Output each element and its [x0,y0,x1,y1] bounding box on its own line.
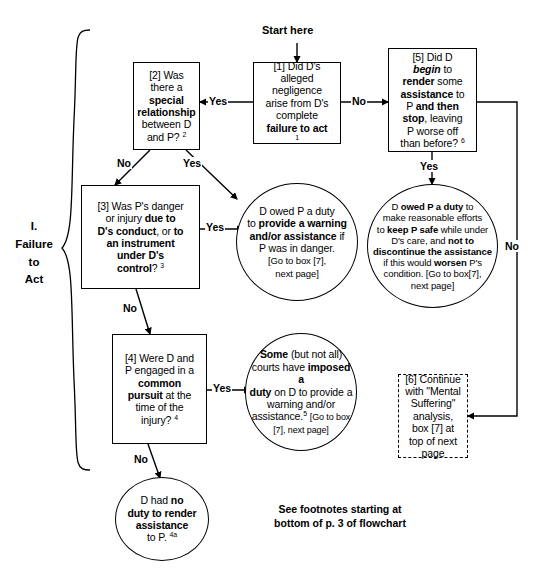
node-oval-some-courts-text: Some (but not all)courts have imposed ad… [246,348,356,435]
node-box-2-text: [2] Wasthere aspecialrelationshipbetween… [134,69,199,143]
node-box-6-text: [6] Continuewith "MentalSuffering"analys… [399,373,467,460]
edge-label-box5-box6: No [504,240,520,252]
node-box-4[interactable]: [4] Were D andP engaged in acommonpursui… [112,334,207,444]
node-box-2[interactable]: [2] Wasthere aspecialrelationshipbetween… [133,62,200,150]
edge-label-box2-box3: No [116,157,132,169]
node-oval-duty-warning-text: D owed P a dutyto provide a warningand/o… [237,205,357,279]
node-oval-duty-safe[interactable]: D owed P a duty tomake reasonable effort… [367,184,498,308]
flowchart-page: Start here I. Failure to Act [1] Did D's… [0,0,544,584]
section-label: I. Failure to Act [8,218,60,289]
node-oval-duty-safe-text: D owed P a duty tomake reasonable effort… [368,201,497,291]
node-box-1-text: [1] Did D'sallegednegligencearise from D… [254,60,340,147]
edge-label-box2-oval: Yes [182,157,202,169]
node-oval-some-courts[interactable]: Some (but not all)courts have imposed ad… [245,333,357,451]
node-box-4-text: [4] Were D andP engaged in acommonpursui… [113,352,206,426]
edge-label-box4-oval: Yes [212,382,232,394]
node-box-3[interactable]: [3] Was P's dangeror injury due toD's co… [81,185,200,289]
edge-label-box3-box4: No [122,302,138,314]
node-oval-no-duty[interactable]: D had noduty to renderassistanceto P. 4a [115,477,209,561]
footnote-reference: See footnotes starting at bottom of p. 3… [247,503,433,530]
edge-label-box4-noduty: No [133,453,149,465]
start-here-label: Start here [262,24,313,36]
node-box-6[interactable]: [6] Continuewith "MentalSuffering"analys… [398,374,468,458]
node-box-5-text: [5] Did Dbegin torender someassistance t… [389,51,476,150]
edge-label-box3-oval: Yes [205,221,225,233]
node-box-5[interactable]: [5] Did Dbegin torender someassistance t… [388,48,477,152]
edge-label-box5-oval: Yes [419,160,439,172]
node-box-1[interactable]: [1] Did D'sallegednegligencearise from D… [253,62,341,144]
node-oval-no-duty-text: D had noduty to renderassistanceto P. 4a [116,494,208,544]
edge-label-box1-box5: No [351,95,367,107]
edge-label-box1-box2: Yes [208,95,228,107]
node-box-3-text: [3] Was P's dangeror injury due toD's co… [82,200,199,274]
node-oval-duty-warning[interactable]: D owed P a dutyto provide a warningand/o… [236,183,358,301]
